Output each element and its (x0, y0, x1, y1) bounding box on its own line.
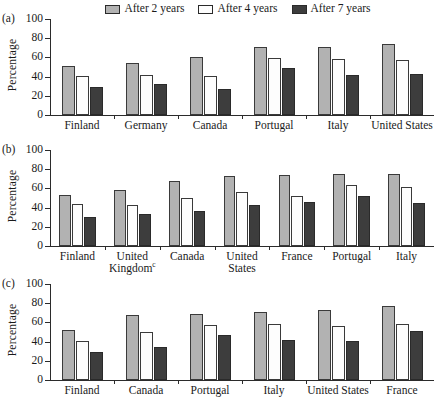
bar (190, 314, 203, 380)
x-tick (114, 115, 115, 119)
x-axis-label: Germany (125, 120, 168, 132)
x-tick (306, 115, 307, 119)
bar (346, 75, 359, 115)
bar (291, 196, 303, 246)
x-axis-label: United States (371, 120, 433, 132)
x-tick (242, 380, 243, 384)
bar (154, 347, 167, 380)
y-tick (45, 361, 50, 362)
x-tick (269, 246, 270, 250)
panel-b: (b) Percentage 020406080100FinlandUnited… (0, 131, 438, 268)
x-axis-label: Finland (64, 385, 99, 397)
panel-b-ylabel: Percentage (6, 158, 18, 234)
y-tick-label: 60 (32, 52, 44, 64)
y-tick (45, 380, 50, 381)
figure-bar-charts: After 2 yearsAfter 4 yearsAfter 7 years … (0, 0, 438, 400)
x-tick (105, 246, 106, 250)
bar (90, 87, 103, 115)
y-tick-label: 20 (32, 221, 44, 233)
panel-a-ylabel: Percentage (6, 27, 18, 103)
bar (140, 332, 153, 380)
x-axis-label: Italy (327, 120, 348, 132)
x-axis-label: Portugal (255, 120, 294, 132)
y-tick (45, 208, 50, 209)
y-tick-label: 40 (32, 71, 44, 83)
x-axis-label: Canada (170, 251, 204, 263)
x-axis-label: Finland (64, 120, 99, 132)
x-axis-label: Italy (396, 251, 417, 263)
bar (236, 192, 248, 246)
y-tick (45, 227, 50, 228)
bar (127, 205, 139, 246)
y-tick-label: 80 (32, 297, 44, 309)
y-tick-label: 100 (26, 278, 43, 290)
x-axis-line (50, 246, 434, 247)
bar (396, 60, 409, 115)
x-axis-label: Finland (60, 251, 95, 263)
y-tick-label: 0 (37, 109, 43, 121)
y-tick (45, 38, 50, 39)
panel-c-tag: (c) (2, 278, 15, 290)
y-tick (45, 342, 50, 343)
y-tick (45, 150, 50, 151)
bar (268, 58, 281, 115)
bar (358, 196, 370, 246)
panel-b-tag: (b) (2, 144, 15, 156)
bar (126, 63, 139, 115)
bar (204, 76, 217, 115)
x-tick (370, 380, 371, 384)
bar (126, 315, 139, 380)
y-tick-label: 100 (26, 144, 43, 156)
y-tick (45, 57, 50, 58)
y-tick (45, 246, 50, 247)
bar (218, 89, 231, 115)
bar (154, 84, 167, 115)
y-tick (45, 303, 50, 304)
x-axis-label: Portugal (191, 385, 230, 397)
bar (282, 68, 295, 115)
y-tick (45, 322, 50, 323)
bar (90, 352, 103, 380)
y-tick (45, 188, 50, 189)
bar (346, 341, 359, 380)
bar (332, 59, 345, 115)
y-axis-line (50, 19, 51, 116)
y-axis-line (50, 284, 51, 381)
bar (401, 187, 413, 246)
bar (224, 176, 236, 246)
x-tick (242, 115, 243, 119)
y-tick (45, 284, 50, 285)
x-tick (114, 380, 115, 384)
x-tick (379, 246, 380, 250)
x-tick (324, 246, 325, 250)
x-axis-label: France (281, 251, 312, 263)
x-tick (215, 246, 216, 250)
y-tick-label: 0 (37, 240, 43, 252)
bar (382, 306, 395, 380)
y-axis-line (50, 150, 51, 247)
x-tick (370, 115, 371, 119)
x-axis-label: France (386, 385, 417, 397)
y-tick-label: 60 (32, 183, 44, 195)
bar (249, 205, 261, 246)
bar (62, 330, 75, 380)
bar (396, 324, 409, 380)
bar (382, 44, 395, 115)
x-axis-label: Canada (193, 120, 227, 132)
x-tick (160, 246, 161, 250)
y-tick-label: 20 (32, 355, 44, 367)
bar (254, 312, 267, 380)
bar (139, 214, 151, 246)
bar (169, 181, 181, 246)
bar (181, 198, 193, 246)
y-tick-label: 40 (32, 336, 44, 348)
bar (333, 174, 345, 246)
x-tick (306, 380, 307, 384)
x-tick (178, 380, 179, 384)
bar (346, 185, 358, 246)
panel-a-tag: (a) (2, 13, 15, 25)
x-axis-label: Italy (263, 385, 284, 397)
bar (318, 47, 331, 115)
bar (332, 326, 345, 380)
bar (76, 76, 89, 115)
